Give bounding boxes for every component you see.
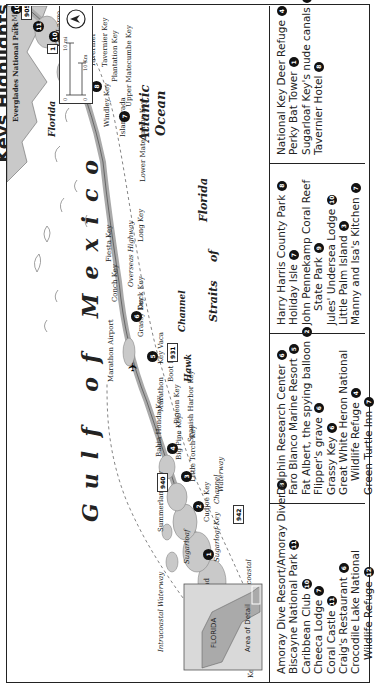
route-shield: 905 [21,6,32,20]
legend-item[interactable]: Dolphin Research Center6 [275,335,287,495]
legend-item[interactable]: Amoray Dive Resort/Amoray Diver8 [275,514,287,674]
place-label: Sugarloaf [183,529,191,564]
map-frame: ✈ ✈ Gulf of Mexico Atlantic Ocean Strait… [6,4,370,683]
legend-item[interactable]: Jules' Undersea Lodge10 [325,165,337,325]
scale-and-north-box: 0 10 mi 0 10 Km [59,6,93,104]
map-marker[interactable]: 2 [193,501,204,512]
florida-bay-label-1: Florida [47,101,57,137]
map-area: ✈ ✈ Gulf of Mexico Atlantic Ocean Strait… [7,6,270,682]
place-label: Windley Key [103,83,111,127]
map-marker[interactable]: 5 [147,351,158,362]
legend-item[interactable]: Flipper's grave6 [312,335,324,495]
legend-column-2: Dolphin Research Center6 Faro Blanco Mar… [269,335,365,504]
legend-item[interactable]: Tavernier Hotel8 [312,0,324,155]
gulf-of-mexico-label: Gulf of Mexico [77,146,103,522]
legend-item[interactable]: Coral Castle11 [325,514,337,674]
legend-item[interactable]: Wildlife Refuge12 [362,514,374,674]
place-label: Duck Key [137,276,145,310]
route-shield: 931 [167,343,178,362]
scale-km-label: 10 Km [82,55,88,71]
legend-column-3: Harry Harris County Park8 Holiday Isle7 … [269,165,365,334]
legend-item[interactable]: Faro Blanco Marine Resort5 [287,335,299,495]
intracoastal-label-1: Intracoastal Waterway [157,572,165,652]
legend-item[interactable]: Craig's Restaurant6 [337,514,349,674]
legend-item[interactable]: Harry Harris County Park8 [275,165,287,325]
airplane-icon-marathon: ✈ [126,362,140,372]
place-label: Sugarloaf Key [213,512,221,562]
legend-item[interactable]: National Key Deer Refuge4 [275,0,287,155]
place-label: Key Vaca [157,332,165,364]
place-label: Conch Key [111,264,119,302]
map-marker[interactable]: 4 [167,443,178,454]
route-shield: 940 [157,473,168,492]
inset-detail-label: Area of Detail [244,604,252,652]
atlantic-label-2: Ocean [153,91,168,136]
inset-florida-label: FLORIDA [210,618,218,648]
place-label: Plantation Key [111,30,119,82]
legend-item[interactable]: Cheeca Lodge7 [312,514,324,674]
legend-column-1: Amoray Dive Resort/Amoray Diver8 Biscayn… [275,514,374,674]
legend-item[interactable]: Holiday Isle7 [287,165,299,325]
map-marker[interactable]: 11 [33,21,44,32]
legend-item[interactable]: Manny and Isa's Kitchen7 [349,165,361,325]
legend-item[interactable]: Caribbean Club10 [300,514,312,674]
place-label: Spanish Harbor Key [187,370,195,442]
place-label: Cudjoe Key [203,482,211,522]
legend-column-4: National Key Deer Refuge4 Perky Bat Towe… [269,0,365,164]
legend-item[interactable]: State Park9 [312,165,324,325]
legend-item[interactable]: Wildlife Refuge4 [349,335,361,495]
map-marker[interactable]: 7 [119,111,130,122]
place-label: Marathon Airport [107,319,115,382]
legend-item[interactable]: Biscayne National Park11 [287,514,299,674]
straits-label: Straits [207,281,220,322]
place-label: Upper Matecumbe Key [125,25,133,107]
place-label: Long Key [137,209,145,242]
map-marker[interactable]: 1 [203,549,214,560]
legend-item[interactable]: Little Palm Island3 [337,165,349,325]
place-label: Pigeon Key [173,384,181,424]
legend: Amoray Dive Resort/Amoray Diver8 Biscayn… [269,6,369,682]
place-label: Tavernier Key [101,18,109,67]
route-shield: 1 [47,44,58,54]
legend-item[interactable]: Sugarloaf Key's nude canals1 [300,0,312,155]
map-marker[interactable]: 6 [131,311,142,322]
route-shield: 942 [233,505,244,524]
scale-km-zero: 0 [82,98,88,101]
inset-map: FLORIDA Area of Detail [182,582,264,672]
scale-mi-zero: 0 [62,98,68,101]
legend-item[interactable]: Green Turtle Inn7 [362,335,374,495]
legend-item[interactable]: Great White Heron National [337,335,349,495]
straits-of-label: of [207,250,220,262]
scale-mi-label: 10 mi [62,37,68,51]
legend-item[interactable]: John Pennekamp Coral Reef [300,165,312,325]
place-label: Everglades National Park [11,22,20,122]
place-label: Fiesta Key [105,225,113,262]
channel-label: Channel [177,290,187,332]
place-label: Marathon [157,377,165,412]
legend-item[interactable]: Grassy Key6 [325,335,337,495]
place-label: Channel [213,475,221,504]
straits-florida-label: Florida [197,178,210,222]
place-label: Overseas Highway [127,221,135,287]
legend-item[interactable]: Perky Bat Tower1 [287,0,299,155]
map-page: Keys Highlights [0,0,382,689]
legend-item[interactable]: Crocodile Lake National [349,514,361,674]
legend-item[interactable]: Fat Albert, the spying balloon2 [300,335,312,495]
map-marker[interactable]: 3 [181,471,192,482]
place-label: Lower Matecumbe Key [139,100,147,182]
